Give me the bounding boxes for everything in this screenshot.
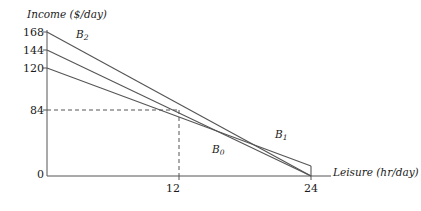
curve-label-b1-base: B <box>275 128 283 140</box>
curve-label-b1: B1 <box>275 128 288 142</box>
y-tick-label-168: 168 <box>14 26 44 39</box>
intersection-guide-lines <box>47 110 179 176</box>
curve-label-b0: B0 <box>212 143 225 157</box>
x-tick-label-24: 24 <box>301 182 321 195</box>
x-tick-label-12: 12 <box>163 182 183 195</box>
y-tick-label-84: 84 <box>14 104 44 117</box>
chart-canvas <box>0 0 421 211</box>
x-tick-marks <box>179 176 311 180</box>
y-tick-label-0: 0 <box>14 168 44 181</box>
curve-label-b1-subscript: 1 <box>283 133 288 142</box>
y-tick-label-120: 120 <box>14 62 44 75</box>
curve-label-b0-subscript: 0 <box>220 148 225 157</box>
budget-constraint-chart: Income ($/day) Leisure (hr/day) 168 144 … <box>0 0 421 211</box>
curve-label-b0-base: B <box>212 143 220 155</box>
curve-label-b2-subscript: 2 <box>84 33 89 42</box>
curve-label-b2: B2 <box>76 28 89 42</box>
x-axis-title: Leisure (hr/day) <box>333 166 419 178</box>
y-tick-label-144: 144 <box>14 44 44 57</box>
axis-group <box>47 30 331 176</box>
y-axis-title: Income ($/day) <box>27 8 107 20</box>
curve-label-b2-base: B <box>76 28 84 40</box>
